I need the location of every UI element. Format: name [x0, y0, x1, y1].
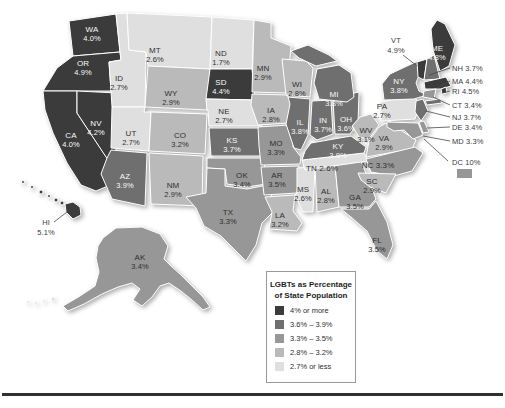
legend-item-cat1: 4% or more: [275, 306, 355, 315]
leader-line-DC: [424, 139, 448, 161]
legend-title: LGBTs as Percentage of State Population: [267, 279, 355, 301]
callout-label-DC: DC 10%: [452, 158, 481, 167]
state-HI-big-island: [65, 202, 81, 219]
state-label-WV: WV3.1%: [357, 126, 375, 144]
legend-label-cat3: 3.3% – 3.5%: [290, 334, 333, 343]
legend-items: 4% or more3.6% – 3.9%3.3% – 3.5%2.8% – 3…: [267, 306, 355, 371]
legend-swatch-cat4: [275, 348, 284, 357]
callout-label-DE: DE 3.4%: [452, 123, 483, 132]
leader-line-NJ: [426, 111, 450, 117]
state-HI-island: [48, 195, 51, 198]
state-AK-aleutian-island: [43, 300, 45, 302]
state-label-NM: NM2.9%: [164, 181, 182, 199]
state-HI-island: [54, 198, 58, 202]
legend-label-cat2: 3.6% – 3.9%: [290, 320, 333, 329]
legend-label-cat1: 4% or more: [290, 306, 329, 315]
legend-label-cat4: 2.8% – 3.2%: [290, 348, 333, 357]
figure-lgbt-population-map: WA4.0%OR4.9%CA4.0%NV4.2%ID2.7%UT2.7%AZ3.…: [0, 0, 505, 408]
legend-swatch-cat5: [275, 362, 284, 371]
state-label-TN: TN 2.6%: [306, 164, 338, 173]
state-HI-island: [60, 201, 64, 205]
state-AK-aleutian-island: [52, 298, 54, 300]
state-label-NC: NC 3.3%: [362, 161, 395, 170]
legend-swatch-cat1: [275, 306, 284, 315]
legend-box: LGBTs as Percentage of State Population …: [266, 271, 356, 383]
leader-line-HI: [54, 212, 67, 222]
dc-color-swatch: [457, 169, 472, 178]
callout-label-NJ: NJ 3.7%: [452, 113, 481, 122]
legend-item-cat3: 3.3% – 3.5%: [275, 334, 355, 343]
legend-title-line1: LGBTs as Percentage: [267, 279, 355, 290]
state-label-MN: MN2.9%: [254, 64, 272, 82]
page-bottom-rule: [2, 393, 503, 396]
callout-label-MD: MD 3.3%: [452, 137, 484, 146]
callout-label-HI: HI5.1%: [37, 218, 55, 237]
callout-label-CT: CT 3.4%: [452, 101, 482, 110]
state-label-WY: WY2.9%: [162, 89, 180, 107]
state-HI-island: [39, 190, 43, 194]
state-label-WA: WA4.0%: [83, 25, 101, 43]
callout-label-RI: RI 4.5%: [452, 87, 480, 96]
leader-line-MD: [423, 136, 450, 141]
state-HI-island: [22, 181, 25, 184]
legend-item-cat4: 2.8% – 3.2%: [275, 348, 355, 357]
legend-swatch-cat2: [275, 320, 284, 329]
callout-label-MA: MA 4.4%: [452, 77, 483, 86]
state-label-MO: MO3.3%: [267, 139, 285, 157]
callout-label-NH: NH 3.7%: [452, 64, 483, 73]
leader-line-DE: [427, 127, 450, 128]
state-HI-island: [31, 186, 34, 189]
legend-item-cat5: 2.7% or less: [275, 362, 355, 371]
legend-title-line2: of State Population: [267, 290, 355, 301]
state-AK-aleutian-island: [35, 302, 37, 304]
legend-swatch-cat3: [275, 334, 284, 343]
legend-item-cat2: 3.6% – 3.9%: [275, 320, 355, 329]
callout-label-VT: VT4.9%: [387, 36, 405, 55]
state-AK-aleutian-island: [27, 301, 29, 303]
legend-label-cat5: 2.7% or less: [290, 362, 331, 371]
us-choropleth-map: WA4.0%OR4.9%CA4.0%NV4.2%ID2.7%UT2.7%AZ3.…: [0, 0, 505, 408]
